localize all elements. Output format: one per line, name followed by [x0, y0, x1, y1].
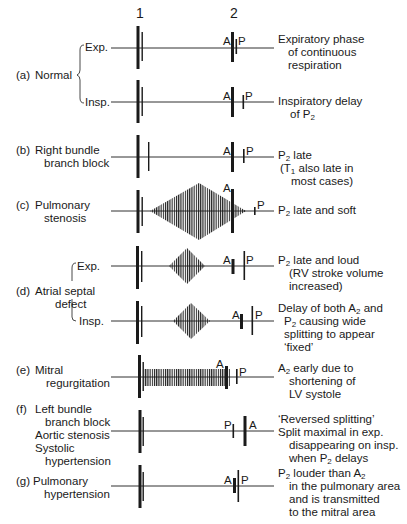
marker-p: P	[241, 474, 249, 486]
row-f-tag: (f)	[16, 403, 27, 416]
row-g-condition-2: hypertension	[44, 488, 110, 501]
note-g-4: to the mitral area	[289, 506, 375, 519]
note-f-1: ‘Reversed splitting’	[278, 413, 375, 426]
marker-a: A	[223, 145, 231, 157]
marker-p: P	[257, 199, 265, 211]
row-e-condition-2: regurgitation	[46, 377, 110, 390]
marker-p: P	[224, 419, 232, 431]
note-e-3: LV systole	[289, 388, 341, 401]
row-g-condition-1: Pulmonary	[33, 475, 88, 488]
row-b-condition-2: branch block	[44, 157, 109, 170]
marker-p: P	[245, 90, 253, 102]
row-f-condition-4: Systolic	[35, 442, 75, 455]
note-a-exp-1: Expiratory phase	[278, 33, 364, 46]
marker-p: P	[238, 35, 246, 47]
marker-a: A	[223, 35, 231, 47]
marker-a: A	[223, 182, 231, 194]
note-d-exp-2: (RV stroke volume	[289, 267, 383, 280]
row-f-condition-1: Left bundle	[35, 403, 92, 416]
marker-a: A	[223, 90, 231, 102]
row-d-tag: (d)	[16, 285, 30, 298]
flow-murmur-asd-exp	[169, 248, 205, 284]
row-g-tag: (g)	[16, 475, 30, 488]
note-a-insp-2: of P2	[290, 108, 315, 125]
row-a-exp-label: Exp.	[85, 41, 108, 54]
note-b-3: most cases)	[291, 175, 353, 188]
row-c-condition-1: Pulmonary	[35, 199, 90, 212]
marker-a: A	[249, 419, 257, 431]
note-g-2: in the pulmonary area	[289, 480, 400, 493]
note-a-insp-1: Inspiratory delay	[278, 95, 362, 108]
note-c-1: P2 late and soft	[278, 204, 356, 221]
note-d-insp-4: ‘fixed’	[284, 341, 313, 354]
marker-p: P	[255, 309, 263, 321]
note-d-insp-3: splitting to appear	[284, 328, 375, 341]
note-a-exp-2: of continuous	[288, 46, 356, 59]
marker-a: A	[216, 358, 224, 370]
row-f-condition-2: branch block	[45, 416, 110, 429]
row-c-tag: (c)	[16, 199, 29, 212]
row-f-condition-5: hypertension	[45, 455, 111, 468]
note-e-2: shortening of	[289, 375, 356, 388]
marker-p: P	[246, 254, 254, 266]
note-d-exp-3: increased)	[289, 280, 343, 293]
row-a-condition: Normal	[35, 69, 72, 82]
row-b-condition-1: Right bundle	[35, 144, 100, 157]
pansystolic-murmur-mr	[144, 369, 230, 386]
row-d-condition-2: defect	[55, 298, 86, 311]
marker-p: P	[246, 145, 254, 157]
murmur-shapes	[144, 183, 246, 386]
row-c-condition-2: stenosis	[44, 212, 86, 225]
marker-a: A	[232, 309, 240, 321]
row-a-tag: (a)	[16, 69, 30, 82]
marker-p: P	[239, 366, 247, 378]
row-e-tag: (e)	[16, 364, 30, 377]
marker-a: A	[224, 474, 232, 486]
row-f-condition-3: Aortic stenosis	[35, 429, 110, 442]
row-d-insp-label: Insp.	[79, 315, 104, 328]
row-d-exp-label: Exp.	[77, 260, 100, 273]
row-b-tag: (b)	[16, 144, 30, 157]
flow-murmur-asd-insp	[173, 303, 210, 339]
row-a-insp-label: Insp.	[85, 96, 110, 109]
note-g-3: and is transmitted	[289, 493, 380, 506]
note-f-2: Split maximal in exp.	[278, 426, 383, 439]
row-d-condition-1: Atrial septal	[35, 285, 95, 298]
normal-brace	[77, 45, 84, 103]
marker-a: A	[223, 254, 231, 266]
note-f-3: disappearing on insp.	[289, 439, 398, 452]
row-e-condition-1: Mitral	[35, 364, 63, 377]
note-a-exp-3: respiration	[288, 59, 342, 72]
